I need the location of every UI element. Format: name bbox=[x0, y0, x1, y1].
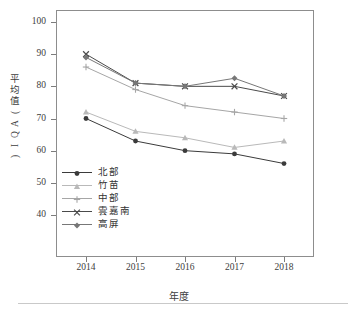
legend-marker-filled-triangle-icon bbox=[62, 179, 92, 192]
legend-item-雲嘉南[interactable]: 雲嘉南 bbox=[62, 205, 131, 218]
legend-label: 竹苗 bbox=[92, 179, 120, 192]
x-tick-label: 2017 bbox=[218, 263, 252, 273]
legend-label: 北部 bbox=[92, 166, 120, 179]
y-tick-label: 50 bbox=[20, 178, 46, 188]
legend-label: 高屏 bbox=[92, 218, 120, 231]
y-tick-mark bbox=[51, 22, 56, 23]
y-tick-mark bbox=[51, 183, 56, 184]
legend-label: 雲嘉南 bbox=[92, 205, 131, 218]
legend-marker-plus-icon bbox=[62, 192, 92, 205]
legend-marker-filled-circle-icon bbox=[62, 166, 92, 179]
y-axis-title-char: 平 bbox=[8, 74, 22, 85]
y-tick-mark bbox=[51, 151, 56, 152]
legend-label: 中部 bbox=[92, 192, 120, 205]
x-axis-title: 年度 bbox=[0, 288, 358, 303]
y-tick-mark bbox=[51, 119, 56, 120]
x-tick-mark bbox=[235, 257, 236, 262]
x-tick-mark bbox=[185, 257, 186, 262]
y-tick-mark bbox=[51, 215, 56, 216]
chart-legend: 北部竹苗中部雲嘉南高屏 bbox=[62, 166, 131, 231]
y-tick-label: 80 bbox=[20, 81, 46, 91]
chart-figure: 100908070605040 20142015201620172018 平均值… bbox=[0, 0, 358, 312]
y-tick-label: 70 bbox=[20, 114, 46, 124]
x-tick-label: 2016 bbox=[168, 263, 202, 273]
y-axis-title: 平均值(AQI) bbox=[8, 74, 22, 162]
y-tick-label: 60 bbox=[20, 146, 46, 156]
data-point-plus bbox=[74, 196, 80, 202]
x-tick-mark bbox=[86, 257, 87, 262]
x-tick-mark bbox=[284, 257, 285, 262]
legend-item-北部[interactable]: 北部 bbox=[62, 166, 131, 179]
y-axis-title-char: 均 bbox=[8, 85, 22, 96]
legend-item-竹苗[interactable]: 竹苗 bbox=[62, 179, 131, 192]
data-point-filled-diamond bbox=[74, 222, 80, 228]
x-tick-label: 2014 bbox=[69, 263, 103, 273]
y-tick-mark bbox=[51, 54, 56, 55]
y-tick-label: 90 bbox=[20, 49, 46, 59]
legend-marker-x-cross-icon bbox=[62, 205, 92, 218]
data-point-filled-circle bbox=[75, 171, 80, 176]
y-tick-label: 40 bbox=[20, 210, 46, 220]
data-point-x-cross bbox=[74, 209, 80, 215]
x-tick-mark bbox=[136, 257, 137, 262]
x-tick-label: 2018 bbox=[267, 263, 301, 273]
y-tick-mark bbox=[51, 86, 56, 87]
y-axis-title-char: ) bbox=[10, 150, 21, 164]
legend-item-中部[interactable]: 中部 bbox=[62, 192, 131, 205]
y-tick-label: 100 bbox=[20, 17, 46, 27]
footer-divider bbox=[18, 303, 348, 304]
data-point-filled-triangle bbox=[74, 183, 80, 189]
legend-marker-filled-diamond-icon bbox=[62, 218, 92, 231]
x-tick-label: 2015 bbox=[119, 263, 153, 273]
legend-item-高屏[interactable]: 高屏 bbox=[62, 218, 131, 231]
